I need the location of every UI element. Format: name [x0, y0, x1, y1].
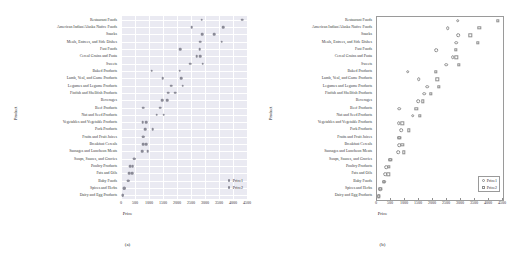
data-point: [142, 135, 145, 138]
panel-a-y-tick-label: Beef Products: [95, 106, 117, 110]
data-point: [429, 92, 432, 95]
panel-b-y-tick-label: Soups, Sauces, and Gravies: [329, 157, 372, 161]
panel-a-y-tick-label: Baby Foods: [98, 179, 117, 183]
panel-a-y-tick-label: Spices and Herbs: [90, 186, 117, 190]
data-point: [144, 128, 147, 131]
panel-a-y-tick-label: Lamb, Veal, and Game Products: [67, 76, 117, 80]
grid-line-horizontal: [121, 71, 247, 72]
grid-line-horizontal: [121, 64, 247, 65]
data-point: [145, 121, 148, 124]
panel-a-x-axis-title: Price: [0, 211, 255, 216]
grid-line-horizontal: [121, 49, 247, 50]
data-point: [454, 41, 458, 45]
panel-b-y-tick-label: Fruits and Fruit Juices: [337, 135, 372, 139]
legend-label: Price1: [487, 178, 497, 183]
legend-label: Price2: [233, 185, 243, 190]
panel-b-x-tick-label: 4000: [484, 200, 492, 205]
panel-a-x-tick-label: 3000: [201, 200, 209, 205]
panel-a-x-tick-label: 500: [132, 200, 138, 205]
panel-b-y-tick-label: Dairy and Egg Products: [335, 193, 372, 197]
legend-marker-icon: [481, 179, 486, 182]
data-point: [180, 77, 183, 80]
data-point: [455, 56, 458, 59]
data-point: [199, 40, 202, 43]
legend-item[interactable]: Price1: [479, 177, 499, 184]
data-point: [141, 150, 144, 153]
data-point: [162, 114, 165, 117]
grid-line-horizontal: [121, 78, 247, 79]
panel-b-caption: (b): [255, 242, 510, 247]
grid-line-horizontal: [121, 129, 247, 130]
panel-a-y-tick-label: Breakfast Cereals: [89, 142, 117, 146]
panel-b-x-tick-mark: [418, 198, 419, 200]
panel-a-y-tick-label: Fruits and Fruit Juices: [82, 135, 117, 139]
legend-item[interactable]: Price2: [225, 184, 245, 191]
data-point: [417, 77, 421, 81]
legend-marker-icon: [227, 179, 232, 181]
data-point: [161, 77, 164, 80]
panel-b-plot: Price1Price2: [376, 16, 502, 199]
panel-b-y-tick-labels: Restaurant FoodsAmerican Indian/Alaska N…: [269, 16, 372, 199]
panel-a-caption: (a): [0, 242, 255, 247]
panel-b-plot-area: [376, 16, 504, 201]
grid-line-horizontal: [121, 100, 247, 101]
data-point: [142, 106, 145, 109]
grid-line-horizontal: [121, 166, 247, 167]
panel-a-y-tick-label: Dairy and Egg Products: [80, 193, 117, 197]
data-point: [142, 121, 145, 124]
panel-a-y-tick-label: Poultry Products: [91, 164, 117, 168]
panel-a-plot-area: [121, 16, 247, 199]
grid-line-horizontal: [121, 115, 247, 116]
data-point: [189, 62, 192, 65]
panel-b-y-tick-label: Baked Products: [347, 69, 372, 73]
data-point: [400, 129, 404, 133]
grid-line-horizontal: [121, 42, 247, 43]
data-point: [418, 114, 421, 117]
data-point: [397, 107, 401, 111]
data-point: [159, 106, 162, 109]
data-point: [123, 187, 126, 190]
data-point: [426, 85, 430, 89]
panel-b-x-tick-mark: [488, 198, 489, 200]
figure-two-panel-scatter: Product Restaurant FoodsAmerican Indian/…: [0, 0, 510, 275]
data-point: [456, 19, 460, 23]
data-point: [414, 107, 417, 110]
panel-b-y-tick-label: Poultry Products: [346, 164, 372, 168]
data-point: [121, 194, 124, 197]
legend-item[interactable]: Price2: [479, 184, 499, 191]
data-point: [161, 99, 164, 102]
data-point: [200, 18, 203, 21]
panel-b-y-tick-label: Fats and Oils: [351, 171, 372, 175]
data-point: [477, 26, 480, 29]
data-point: [198, 48, 201, 51]
data-point: [437, 85, 440, 88]
panel-a-x-tick-label: 4500: [243, 200, 251, 205]
panel-b-y-tick-label: Lamb, Veal, and Game Products: [322, 76, 372, 80]
panel-b-y-tick-label: Legumes and Legume Products: [323, 84, 372, 88]
panel-a-x-tick-label: 0: [120, 200, 122, 205]
panel-b-x-tick-mark: [502, 198, 503, 200]
data-point: [133, 157, 136, 160]
data-point: [456, 34, 460, 38]
data-point: [191, 26, 194, 29]
panel-b-y-tick-label: Cereal Grains and Pasta: [335, 54, 372, 58]
data-point: [407, 129, 410, 132]
panel-a-y-tick-labels: Restaurant FoodsAmerican Indian/Alaska N…: [14, 16, 117, 199]
data-point: [454, 48, 457, 51]
legend-item[interactable]: Price1: [225, 177, 245, 184]
data-point: [156, 114, 159, 117]
panel-a-y-tick-label: Soups, Sauces, and Gravies: [74, 157, 117, 161]
panel-a-y-tick-label: Fast Foods: [100, 47, 117, 51]
panel-b-x-tick-mark: [460, 198, 461, 200]
panel-b-x-tick-mark: [404, 198, 405, 200]
data-point: [174, 92, 177, 95]
data-point: [396, 151, 400, 155]
data-point: [377, 195, 380, 198]
panel-b-y-tick-label: Sausages and Luncheon Meats: [324, 149, 372, 153]
data-point: [166, 99, 169, 102]
panel-a-y-tick-label: Fats and Oils: [96, 171, 117, 175]
panel-b-y-tick-label: Nut and Seed Products: [336, 113, 372, 117]
panel-a-legend: Price1Price2: [225, 177, 245, 191]
legend-label: Price1: [233, 178, 243, 183]
panel-b-y-tick-label: Beverages: [356, 98, 372, 102]
